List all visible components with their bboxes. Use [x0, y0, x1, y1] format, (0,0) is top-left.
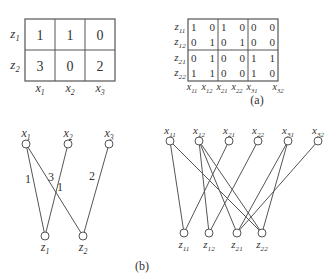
matrix-cell: 1 — [240, 36, 246, 48]
label-x3: x3 — [103, 126, 113, 142]
matrix-cell: 1 — [221, 21, 227, 33]
node-z2 — [79, 232, 87, 240]
edge — [199, 141, 209, 233]
matrix-cell: 1 — [210, 36, 216, 48]
label-x11: x11 — [163, 124, 176, 139]
label-x12: x12 — [201, 81, 214, 94]
matrix-cell: 3 — [37, 59, 44, 74]
caption-a: (a) — [250, 93, 263, 107]
matrix-cell: 1 — [270, 52, 276, 64]
node-z22 — [258, 229, 266, 237]
matrix-cell: 0 — [97, 28, 104, 43]
matrix-cell: 0 — [191, 36, 197, 48]
edge — [199, 141, 262, 233]
matrix-cell: 0 — [221, 52, 227, 64]
figure: 110302z1z2x1x2x3101000010100010011110010… — [0, 0, 336, 279]
node-z11 — [180, 229, 188, 237]
matrix-cell: 0 — [210, 21, 216, 33]
caption-b: (b) — [135, 259, 149, 273]
matrix-cell: 1 — [191, 67, 197, 79]
matrix-cell: 0 — [191, 52, 197, 64]
edge-weight: 1 — [25, 172, 31, 186]
label-x2: x2 — [62, 126, 72, 142]
label-z2: z2 — [9, 57, 20, 74]
edge — [26, 144, 45, 236]
label-z1: z1 — [40, 240, 50, 256]
label-x32: x32 — [311, 124, 324, 139]
label-x11: x11 — [186, 81, 197, 94]
matrix-cell: 0 — [270, 36, 276, 48]
edge — [170, 141, 184, 233]
label-x32: x32 — [272, 81, 285, 94]
edge — [83, 144, 109, 236]
node-z1 — [41, 232, 49, 240]
label-x22: x22 — [231, 81, 244, 94]
edge — [199, 141, 237, 233]
matrix-cell: 0 — [240, 67, 246, 79]
edge — [237, 141, 318, 233]
label-z11: z11 — [178, 238, 190, 253]
matrix-cell: 1 — [251, 67, 257, 79]
label-x12: x12 — [192, 124, 205, 139]
edge-weight: 3 — [48, 170, 54, 184]
label-x3: x3 — [94, 81, 104, 97]
label-z11: z11 — [174, 20, 186, 35]
label-x31: x31 — [281, 124, 294, 139]
matrix-cell: 2 — [97, 59, 104, 74]
matrix-cell: 0 — [251, 21, 257, 33]
label-z2: z2 — [78, 240, 88, 256]
label-x1: x1 — [20, 126, 30, 142]
label-z22: z22 — [173, 66, 186, 81]
label-x21: x21 — [216, 81, 228, 94]
label-x2: x2 — [64, 81, 74, 97]
edge — [184, 141, 229, 233]
matrix-cell: 0 — [270, 21, 276, 33]
matrix-cell: 1 — [191, 21, 197, 33]
edge-weight: 2 — [89, 169, 95, 183]
label-x1: x1 — [34, 81, 44, 97]
matrix-cell: 0 — [270, 67, 276, 79]
matrix-cell: 0 — [67, 59, 74, 74]
edge — [26, 144, 83, 236]
matrix-cell: 1 — [251, 52, 257, 64]
node-z12 — [205, 229, 213, 237]
matrix-cell: 0 — [251, 36, 257, 48]
matrix-cell: 1 — [67, 28, 74, 43]
label-z1: z1 — [9, 26, 19, 43]
matrix-cell: 1 — [37, 28, 44, 43]
label-z12: z12 — [173, 35, 186, 50]
node-z21 — [233, 229, 241, 237]
matrix-cell: 0 — [240, 21, 246, 33]
label-x21: x21 — [222, 124, 235, 139]
edge — [262, 141, 288, 233]
label-z21: z21 — [230, 238, 242, 253]
edge-weight: 1 — [57, 180, 63, 194]
matrix-cell: 1 — [210, 67, 216, 79]
matrix-cell: 0 — [240, 52, 246, 64]
label-z22: z22 — [255, 238, 268, 253]
edge — [237, 141, 288, 233]
label-z21: z21 — [173, 51, 185, 66]
matrix-cell: 0 — [221, 36, 227, 48]
label-z12: z12 — [202, 238, 215, 253]
matrix-cell: 1 — [210, 52, 216, 64]
matrix-cell: 0 — [221, 67, 227, 79]
label-x31: x31 — [246, 81, 258, 94]
label-x22: x22 — [251, 124, 264, 139]
